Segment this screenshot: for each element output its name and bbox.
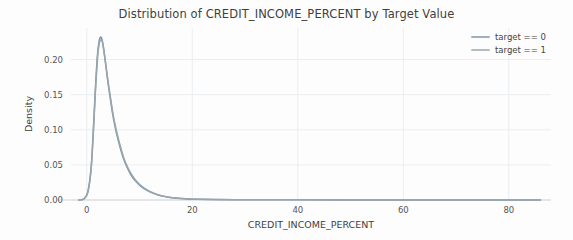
y-tick-label: 0.10 xyxy=(44,125,63,135)
density-curves xyxy=(79,37,541,200)
y-axis-title: Density xyxy=(23,96,34,132)
x-tick-label: 60 xyxy=(398,205,409,215)
x-tick-label: 40 xyxy=(292,205,303,215)
axis-tick-labels: 0.000.050.100.150.20020406080 xyxy=(44,55,514,215)
axis-titles: CREDIT_INCOME_PERCENTDensity xyxy=(23,96,374,230)
x-tick-label: 80 xyxy=(503,205,514,215)
density-curve-0 xyxy=(79,37,541,200)
legend-label-1[interactable]: target == 1 xyxy=(495,45,546,55)
chart-figure: Distribution of CREDIT_INCOME_PERCENT by… xyxy=(0,0,573,240)
legend-label-0[interactable]: target == 0 xyxy=(495,32,546,42)
gridlines xyxy=(71,28,551,200)
y-tick-label: 0.15 xyxy=(44,90,63,100)
y-tick-label: 0.20 xyxy=(44,55,63,65)
density-curve-1 xyxy=(79,40,541,200)
y-tick-label: 0.05 xyxy=(44,160,63,170)
density-plot: 0.000.050.100.150.20020406080 CREDIT_INC… xyxy=(0,0,573,240)
x-tick-label: 20 xyxy=(187,205,198,215)
x-axis-title: CREDIT_INCOME_PERCENT xyxy=(248,219,374,230)
y-tick-label: 0.00 xyxy=(44,195,63,205)
x-tick-label: 0 xyxy=(84,205,89,215)
